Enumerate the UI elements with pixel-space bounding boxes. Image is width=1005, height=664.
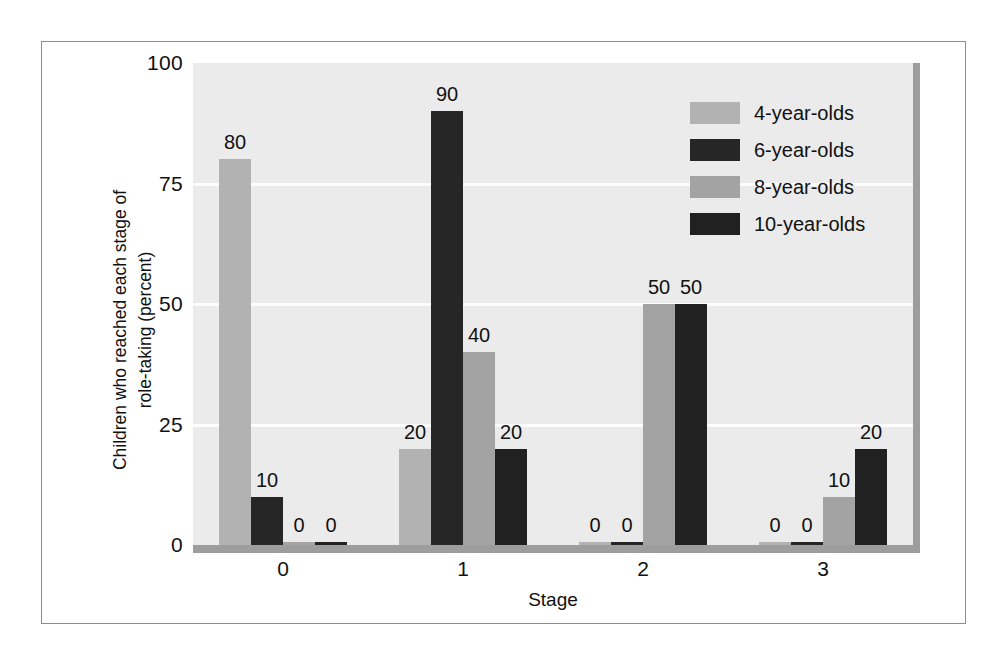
y-axis-title-line-2: role-taking (percent): [135, 252, 155, 409]
bar-value-label: 0: [769, 515, 780, 535]
bar-value-label: 90: [436, 84, 458, 104]
bar[interactable]: 20: [495, 449, 527, 545]
bar-slot: 20: [495, 63, 527, 545]
bar[interactable]: 80: [219, 159, 251, 545]
bar[interactable]: 0: [315, 542, 347, 545]
bar[interactable]: 10: [823, 497, 855, 545]
bar[interactable]: 20: [855, 449, 887, 545]
legend-item-label: 8-year-olds: [754, 176, 854, 198]
legend-item[interactable]: 8-year-olds: [690, 168, 905, 205]
bar-value-label: 40: [468, 325, 490, 345]
bar-value-label: 10: [256, 470, 278, 490]
bar-slot: 10: [251, 63, 283, 545]
legend-item-label: 4-year-olds: [754, 102, 854, 124]
chart-legend: 4-year-olds6-year-olds8-year-olds10-year…: [690, 94, 905, 242]
legend-item-label: 10-year-olds: [754, 213, 865, 235]
bar[interactable]: 10: [251, 497, 283, 545]
bar-group: 801000: [193, 63, 373, 545]
y-axis-tick-label: 100: [123, 52, 183, 73]
bar-value-label: 50: [648, 277, 670, 297]
legend-swatch-icon: [690, 139, 740, 161]
x-axis-tick-label: 0: [193, 556, 373, 586]
bar[interactable]: 90: [431, 111, 463, 545]
bar[interactable]: 50: [675, 304, 707, 545]
x-axis-baseline: [193, 545, 920, 553]
bar[interactable]: 50: [643, 304, 675, 545]
bar-value-label: 0: [589, 515, 600, 535]
legend-swatch-icon: [690, 176, 740, 198]
bar-slot: 0: [611, 63, 643, 545]
bar-slot: 0: [579, 63, 611, 545]
bar-value-label: 0: [801, 515, 812, 535]
bar-slot: 80: [219, 63, 251, 545]
bar-value-label: 0: [293, 515, 304, 535]
bar[interactable]: 0: [579, 542, 611, 545]
bar-slot: 40: [463, 63, 495, 545]
x-axis-tick-label: 2: [553, 556, 733, 586]
legend-item[interactable]: 4-year-olds: [690, 94, 905, 131]
bar[interactable]: 0: [283, 542, 315, 545]
legend-item-label: 6-year-olds: [754, 139, 854, 161]
bar-value-label: 20: [404, 422, 426, 442]
bar-value-label: 0: [621, 515, 632, 535]
bar-slot: 20: [399, 63, 431, 545]
x-axis-tick-label: 3: [733, 556, 913, 586]
y-axis-title-line-1: Children who reached each stage of: [110, 190, 130, 470]
bar[interactable]: 40: [463, 352, 495, 545]
bar[interactable]: 20: [399, 449, 431, 545]
x-axis-tick-labels: 0123: [193, 556, 913, 586]
bar-slot: 0: [315, 63, 347, 545]
bar[interactable]: 0: [611, 542, 643, 545]
x-axis-title: Stage: [193, 588, 913, 612]
bar-value-label: 0: [325, 515, 336, 535]
bar-slot: 90: [431, 63, 463, 545]
bar-slot: 0: [283, 63, 315, 545]
bar-value-label: 10: [828, 470, 850, 490]
bar-value-label: 20: [500, 422, 522, 442]
bar-chart: 1007550250 Children who reached each sta…: [0, 0, 1005, 664]
bar-value-label: 50: [680, 277, 702, 297]
legend-swatch-icon: [690, 102, 740, 124]
bar-slot: 50: [643, 63, 675, 545]
legend-item[interactable]: 10-year-olds: [690, 205, 905, 242]
y-axis-title: Children who reached each stage of role-…: [108, 120, 158, 540]
x-axis-tick-label: 1: [373, 556, 553, 586]
bar[interactable]: 0: [759, 542, 791, 545]
legend-item[interactable]: 6-year-olds: [690, 131, 905, 168]
bar-value-label: 80: [224, 132, 246, 152]
bar-group: 20904020: [373, 63, 553, 545]
bar[interactable]: 0: [791, 542, 823, 545]
legend-swatch-icon: [690, 213, 740, 235]
plot-right-edge: [913, 63, 920, 547]
bar-value-label: 20: [860, 422, 882, 442]
y-axis-title-wrapper: Children who reached each stage of role-…: [66, 63, 110, 545]
